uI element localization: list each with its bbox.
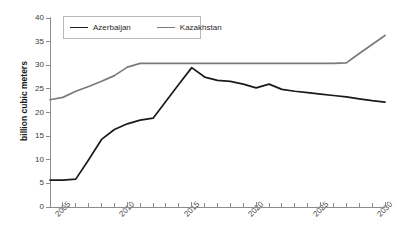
legend-line-swatch-kazakhstan: [157, 27, 175, 28]
axes: [46, 17, 385, 207]
data-series: [50, 35, 385, 180]
legend-item-kazakhstan[interactable]: Kazakhstan: [157, 23, 222, 32]
series-line-kazakhstan: [50, 35, 385, 99]
chart-legend: Azerbaijan Kazakhstan: [63, 16, 201, 39]
chart-container: billion cubic meters 0510152025303540 20…: [0, 0, 400, 246]
legend-line-swatch-azerbaijan: [70, 27, 88, 28]
legend-item-azerbaijan[interactable]: Azerbaijan: [70, 23, 131, 32]
legend-label-kazakhstan: Kazakhstan: [180, 23, 222, 32]
legend-label-azerbaijan: Azerbaijan: [93, 23, 131, 32]
series-line-azerbaijan: [50, 68, 385, 180]
